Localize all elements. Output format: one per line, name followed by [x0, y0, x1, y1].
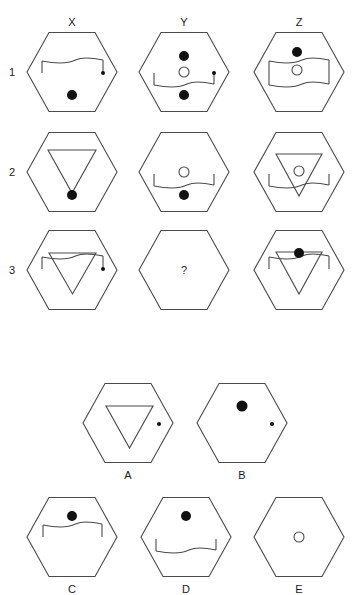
wavy-bracket-down-shape — [43, 522, 102, 537]
option-label-d[interactable]: D — [176, 583, 196, 595]
inverted-triangle-shape — [276, 252, 322, 294]
filled-dot-icon — [294, 248, 304, 258]
filled-dot-icon — [181, 511, 191, 521]
bracket-end-dot-icon — [101, 267, 105, 271]
column-header-x: X — [62, 16, 82, 28]
small-dot-icon — [270, 422, 274, 426]
option-label-c[interactable]: C — [62, 583, 82, 595]
open-circle-icon — [294, 166, 304, 176]
filled-dot-icon — [67, 511, 77, 521]
filled-dot-icon — [179, 90, 189, 100]
open-circle-icon — [292, 65, 302, 75]
cell-2-z — [254, 133, 344, 212]
column-header-z: Z — [289, 16, 309, 28]
missing-cell-question-mark: ? — [174, 264, 194, 276]
open-circle-icon — [294, 532, 304, 542]
cell-3-z — [254, 231, 344, 310]
filled-dot-icon — [67, 90, 77, 100]
cell-3-x — [27, 231, 117, 310]
bracket-end-dot-icon — [212, 71, 216, 75]
option-label-b[interactable]: B — [232, 469, 252, 481]
bracket-end-dot-icon — [101, 71, 105, 75]
puzzle-figure — [0, 0, 352, 595]
row-label-1: 1 — [9, 66, 15, 78]
filled-dot-icon — [237, 401, 248, 412]
hexagon-frame — [254, 231, 344, 310]
inverted-triangle-shape — [106, 406, 153, 448]
hexagon-frame — [27, 498, 117, 577]
row-label-3: 3 — [9, 264, 15, 276]
cell-2-x — [27, 133, 117, 212]
row-label-2: 2 — [9, 166, 15, 178]
option-label-a[interactable]: A — [118, 469, 138, 481]
option-label-e[interactable]: E — [289, 583, 309, 595]
wavy-bracket-up-shape — [156, 539, 216, 553]
cell-2-y — [139, 133, 229, 212]
option-c[interactable] — [27, 498, 117, 577]
inverted-triangle-shape — [48, 150, 96, 193]
open-circle-icon — [179, 67, 189, 77]
wavy-bracket-down-shape — [42, 58, 103, 73]
option-a[interactable] — [83, 384, 173, 463]
filled-dot-icon — [179, 51, 189, 61]
cell-1-y — [139, 33, 229, 112]
cell-1-z — [254, 33, 344, 112]
filled-dot-icon — [179, 190, 189, 200]
option-b[interactable] — [197, 384, 287, 463]
hexagon-frame — [141, 498, 231, 577]
puzzle-canvas: X Y Z 1 2 3 ? A B C D E — [0, 0, 352, 595]
filled-dot-icon — [67, 190, 77, 200]
cell-1-x — [27, 33, 117, 112]
column-header-y: Y — [174, 16, 194, 28]
option-e[interactable] — [254, 498, 344, 577]
small-dot-icon — [157, 422, 161, 426]
open-circle-icon — [179, 167, 189, 177]
option-d[interactable] — [141, 498, 231, 577]
filled-dot-icon — [292, 47, 302, 57]
